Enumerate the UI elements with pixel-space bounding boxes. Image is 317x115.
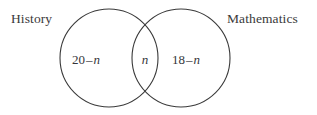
- region-right-variable: n: [194, 52, 201, 67]
- venn-diagram: History Mathematics 20–n n 18–n: [0, 0, 317, 115]
- set-label-history: History: [11, 12, 52, 26]
- region-intersection-variable: n: [142, 52, 149, 67]
- region-label-intersection: n: [142, 53, 149, 66]
- region-left-variable: n: [94, 52, 101, 67]
- region-label-history-only: 20–n: [72, 53, 100, 66]
- region-label-mathematics-only: 18–n: [172, 53, 200, 66]
- region-right-number: 18: [172, 52, 185, 67]
- region-left-number: 20: [72, 52, 85, 67]
- set-label-mathematics: Mathematics: [227, 12, 298, 26]
- region-right-operator: –: [185, 52, 194, 67]
- region-left-operator: –: [85, 52, 94, 67]
